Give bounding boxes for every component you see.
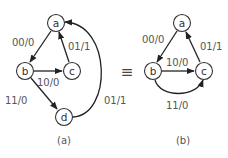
node-b: b [145,63,162,80]
edge-label: 01/1 [104,95,126,106]
edge-label: 01/1 [200,41,222,52]
node-c: c [64,63,81,80]
node-label: b [22,65,29,77]
caption-a: (a) [57,135,71,146]
node-c: c [196,63,213,80]
state-diagram-canvas: a b c d 00/0 01/1 10/0 11/0 01/1 (a) ≡ a [0,0,228,158]
node-a: a [48,15,65,32]
caption-b: (b) [176,135,190,146]
edge-label: 11/0 [5,95,27,106]
edge-label: 11/0 [166,100,188,111]
node-label: c [69,65,75,77]
edge-label: 00/0 [12,37,34,48]
equivalence-symbol: ≡ [121,63,134,81]
edge-label: 10/0 [166,57,188,68]
node-label: b [150,65,157,77]
node-label: d [61,111,68,123]
edge-label: 10/0 [37,77,59,88]
node-a: a [174,15,191,32]
node-label: a [179,17,185,29]
edge-label: 01/1 [68,41,90,52]
node-label: a [53,17,59,29]
edge-b-to-c-curved [155,80,203,94]
node-d: d [56,109,73,126]
node-label: c [201,65,207,77]
node-b: b [17,63,34,80]
diagram-a: a b c d 00/0 01/1 10/0 11/0 01/1 (a) [5,15,126,147]
edge-label: 00/0 [142,34,164,45]
diagram-b: a b c 00/0 01/1 10/0 11/0 (b) [142,15,222,147]
